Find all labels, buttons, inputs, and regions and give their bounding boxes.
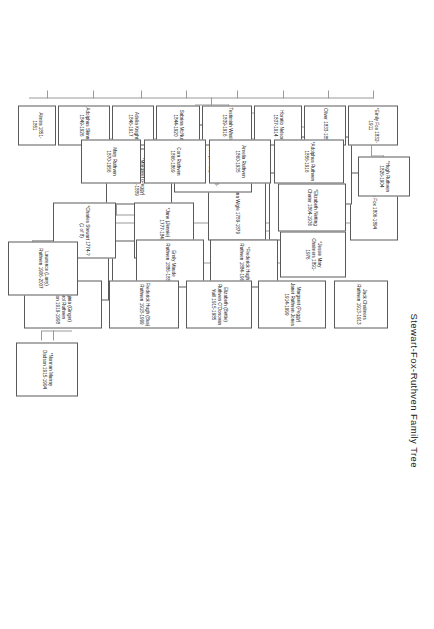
connector <box>328 90 329 98</box>
node-hugh-ruthven[interactable]: *Hugh Ruthven 1826-1904 <box>358 156 410 196</box>
node-label: Frederick Hugh (Bus) Ruthven 1918-1999 <box>138 282 150 326</box>
node-amelia-ruthven[interactable]: Amelia Ruthven 1860-1935 <box>209 139 271 183</box>
node-margaret-peggy-jones[interactable]: Margaret (Peggy) Janet Ruthven Jones 191… <box>258 280 326 328</box>
node-label: Jack Chalmers Ruthven 1913-1913 <box>355 282 367 326</box>
connector <box>47 90 48 98</box>
node-label: *Frederick Hugh Ruthven 1884-1966 <box>238 241 250 285</box>
connector <box>237 90 238 98</box>
node-label: Cora Ruthven 1866-1869 <box>169 141 181 181</box>
node-frederick-hugh-bus-ruthven[interactable]: Frederick Hugh (Bus) Ruthven 1918-1999 <box>109 280 179 328</box>
node-label: Sabrina McNutt 1844-1920 <box>172 107 184 143</box>
node-label: *Hugh Ruthven 1826-1904 <box>378 158 390 194</box>
connector <box>141 90 142 98</box>
connector <box>186 90 187 98</box>
node-lawrence-larry-ruthven[interactable]: Lawrence (Larry) Ruthven 1906-2007 <box>8 241 78 295</box>
node-label: Adelia Knight 1846-1917 <box>127 107 139 143</box>
family-tree-canvas: Stewart-Fox-Ruthven Family Tree <box>0 0 434 629</box>
node-emily-fox[interactable]: *Emily Fox 1832-1911 <box>348 105 398 145</box>
node-label: Elizabeth (Bettie) Ruthven O'Donovan Yui… <box>210 282 228 326</box>
node-elizabeth-bettie-yuill[interactable]: Elizabeth (Bettie) Ruthven O'Donovan Yui… <box>186 280 252 328</box>
connector <box>283 90 284 98</box>
family-tree-sheet: Stewart-Fox-Ruthven Family Tree <box>0 0 434 629</box>
connector <box>42 330 72 331</box>
node-label: Testimiah Whaley 1839-1916 <box>221 107 233 143</box>
node-adolphus-ruthven[interactable]: *Adolphus Ruthven 1856-1916 <box>274 139 344 183</box>
node-label: Adolphus Skinner 1849-1926 <box>78 107 90 143</box>
node-label: *Emily Fox 1832-1911 <box>367 107 379 143</box>
node-label: *Adolphus Ruthven 1856-1916 <box>303 141 315 181</box>
node-label: Mary Ruthven 1870-1956 <box>105 141 117 181</box>
node-label: Amelia Ruthven 1860-1935 <box>234 141 246 181</box>
node-elizabeth-netting-chater[interactable]: *Elizabeth Netting Chater 1864-1936 <box>278 183 346 231</box>
node-jack-chalmers-ruthven[interactable]: Jack Chalmers Ruthven 1913-1913 <box>334 280 388 328</box>
node-label: Almira 1851-1851 <box>31 107 43 143</box>
connector <box>211 97 212 105</box>
node-mary-ruthven[interactable]: Mary Ruthven 1870-1956 <box>81 139 141 183</box>
node-label: *Jessie Mary Chalmers 1891-1976 <box>304 233 322 275</box>
connector <box>29 97 374 98</box>
node-label: Margaret (Peggy) Janet Ruthven Jones 191… <box>283 282 301 326</box>
node-jessie-mary-chalmers[interactable]: *Jessie Mary Chalmers 1891-1976 <box>280 231 346 277</box>
node-label: Lawrence (Larry) Ruthven 1906-2007 <box>37 243 49 293</box>
node-cora-ruthven[interactable]: Cora Ruthven 1866-1869 <box>144 139 206 183</box>
node-label: *Charles Stewart 1774-? (1 of 8) <box>79 204 91 256</box>
node-label: Oliver 1833-1854 <box>322 107 328 143</box>
node-label: *Norman Murray Dadson 1915-1994 <box>41 344 53 394</box>
node-label: Emily Maude Ruthven 1886-1886 <box>164 241 176 285</box>
page-title: Stewart-Fox-Ruthven Family Tree <box>409 313 420 467</box>
connector <box>53 330 54 340</box>
node-norman-murray-dadson[interactable]: *Norman Murray Dadson 1915-1994 <box>16 342 78 396</box>
node-label: Horatio Nelson 1837-1914 <box>272 107 284 143</box>
connector <box>93 90 94 98</box>
connector <box>41 330 42 340</box>
connector <box>373 90 374 98</box>
node-almira[interactable]: Almira 1851-1851 <box>18 105 56 145</box>
node-label: *Elizabeth Netting Chater 1864-1936 <box>306 185 318 229</box>
